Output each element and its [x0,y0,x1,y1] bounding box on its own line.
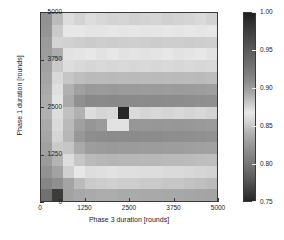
heatmap-cell [140,95,151,107]
heatmap-cell [118,189,129,201]
heatmap-cell [96,25,107,37]
heatmap-cell [184,119,195,131]
heatmap-cell [162,166,173,178]
heatmap-cell [63,189,74,201]
heatmap-cell [173,48,184,60]
heatmap-cell [184,154,195,166]
heatmap-cell [195,60,206,72]
heatmap-cell [184,37,195,49]
heatmap-cell [52,119,63,131]
heatmap-cell [162,107,173,119]
heatmap-cell [107,166,118,178]
heatmap-cell [74,13,85,25]
colorbar-tick-label: 0.75 [260,199,273,206]
heatmap-cell [140,131,151,143]
heatmap-cell [195,84,206,96]
heatmap-cell [151,189,162,201]
heatmap-cell [129,84,140,96]
heatmap-cell [129,37,140,49]
heatmap-cell [140,60,151,72]
x-tick-label: 1250 [77,205,91,212]
heatmap-cell [162,60,173,72]
heatmap-cell [63,25,74,37]
x-tick-mark [174,198,175,202]
heatmap-cell [184,178,195,190]
heatmap-cell [173,37,184,49]
heatmap-cell [151,84,162,96]
heatmap-cell [85,178,96,190]
heatmap-cell [85,84,96,96]
heatmap-cell [129,60,140,72]
heatmap-cell [118,131,129,143]
heatmap-cell [195,178,206,190]
heatmap-cell [63,166,74,178]
heatmap-cell [140,189,151,201]
y-tick-mark [40,155,44,156]
colorbar-tick-mark [252,88,256,89]
y-tick-label: 5000 [48,9,62,16]
heatmap-cell [162,178,173,190]
heatmap-figure: Phase 3 duration [rounds] Phase 1 durati… [0,0,284,240]
heatmap-cell [52,37,63,49]
heatmap-cell [184,13,195,25]
heatmap-cell [74,107,85,119]
heatmap-cell [151,119,162,131]
heatmap-cell [195,107,206,119]
heatmap-cell [206,107,217,119]
heatmap-cell [52,131,63,143]
heatmap-cell [96,189,107,201]
heatmap-cell [173,119,184,131]
colorbar-tick-mark [252,12,256,13]
heatmap-cell [173,154,184,166]
heatmap-cell [63,60,74,72]
y-axis-label: Phase 1 duration [rounds] [16,21,23,171]
heatmap-cell [151,60,162,72]
heatmap-plot-area [40,12,218,202]
heatmap-cell [195,154,206,166]
heatmap-cell [74,60,85,72]
heatmap-cell [184,189,195,201]
heatmap-cell [151,13,162,25]
y-tick-mark [40,60,44,61]
y-tick-label: 0 [58,199,62,206]
heatmap-cell [184,48,195,60]
heatmap-cell [63,13,74,25]
heatmap-cell [184,142,195,154]
heatmap-cell [96,95,107,107]
heatmap-cell [140,107,151,119]
heatmap-cell [96,131,107,143]
heatmap-cell [184,72,195,84]
heatmap-cell [129,166,140,178]
heatmap-cell [129,25,140,37]
heatmap-cell [52,25,63,37]
heatmap-cell [118,37,129,49]
x-tick-label: 5000 [211,205,225,212]
heatmap-cell [195,166,206,178]
heatmap-cell [129,189,140,201]
heatmap-cell [63,131,74,143]
heatmap-cell [118,60,129,72]
heatmap-cell [107,131,118,143]
heatmap-cell [151,166,162,178]
heatmap-cell [118,48,129,60]
heatmap-cell [118,13,129,25]
heatmap-cell [140,166,151,178]
heatmap-cell [162,142,173,154]
heatmap-cell [162,119,173,131]
heatmap-cell [162,13,173,25]
heatmap-cell [118,107,129,119]
heatmap-cell [195,37,206,49]
heatmap-cell [151,107,162,119]
heatmap-cell [107,37,118,49]
heatmap-cell [74,37,85,49]
heatmap-cell [206,119,217,131]
heatmap-cell [173,72,184,84]
heatmap-cell [118,119,129,131]
heatmap-cell [129,48,140,60]
heatmap-cell [129,72,140,84]
heatmap-cell [151,178,162,190]
heatmap-cell [162,154,173,166]
heatmap-cell [63,107,74,119]
colorbar-tick-mark [252,50,256,51]
heatmap-cell [63,154,74,166]
